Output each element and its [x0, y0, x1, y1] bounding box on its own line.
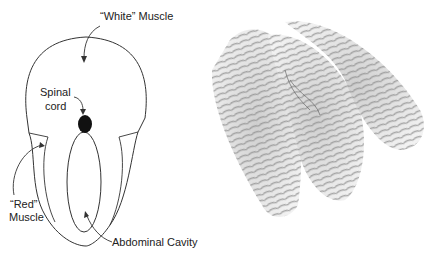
spinal-cord-arrow [74, 97, 83, 110]
fish-fillets-photo [212, 21, 424, 217]
white-muscle-arrow [84, 26, 100, 58]
white-muscle-label: “White” Muscle [100, 10, 173, 23]
arrowhead-icon [81, 56, 87, 63]
right-notch-line [110, 132, 138, 225]
arrowhead-icon [80, 109, 86, 115]
red-muscle-label-line1: “Red” [10, 198, 38, 211]
red-muscle-label-line2: Muscle [9, 211, 44, 224]
spinal-cord [78, 115, 92, 133]
spinal-cord-label-line1: Spinal [40, 86, 71, 99]
spinal-cord-label-line2: cord [45, 100, 66, 113]
abdominal-cavity [67, 132, 101, 232]
red-muscle-arrow [13, 145, 42, 195]
abdominal-cavity-label: Abdominal Cavity [112, 236, 198, 249]
fish-cross-section-diagram [0, 0, 434, 262]
arrowhead-icon [39, 142, 45, 148]
arrowhead-icon [84, 211, 89, 218]
